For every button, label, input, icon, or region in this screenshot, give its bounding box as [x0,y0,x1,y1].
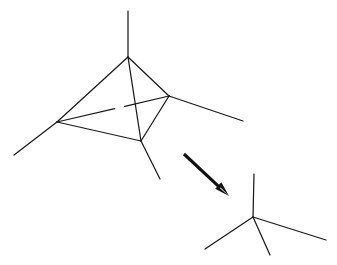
edge-top-bottom [128,57,141,141]
terminal-bond-right [169,96,243,121]
center-bond-lower-left [205,217,253,249]
line-diagram [0,0,337,265]
edge-left-bottom [57,122,141,141]
edge-left-right-segment-b [125,96,169,106]
terminal-bond-left [14,122,57,155]
center-bond-lower-mid [253,217,270,255]
transformation-arrow [184,154,229,196]
edge-right-bottom [141,96,169,141]
edge-top-right [128,57,169,96]
cluster-edges [57,57,169,141]
edge-left-right-segment-a [57,109,115,122]
diagram-canvas [0,0,337,265]
center-bond-right [253,217,326,240]
terminal-bond-front [141,141,160,179]
tetrahedral-cluster [14,11,243,179]
cluster-terminal-bonds [14,11,243,179]
edge-top-left [57,57,128,122]
arrow-shaft [184,154,220,188]
center-bond-up [253,174,254,217]
